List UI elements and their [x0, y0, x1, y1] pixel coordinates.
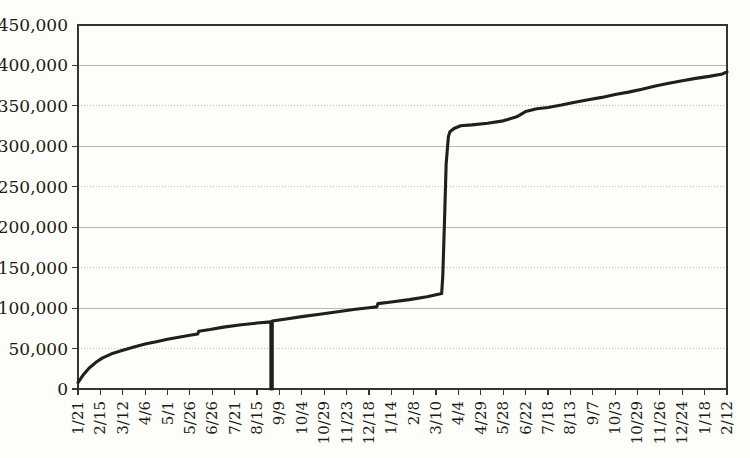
x-tick-label-6-22: 6/22	[517, 401, 535, 435]
x-tick-label-5-28: 5/28	[494, 401, 512, 435]
x-tick-label-4-4: 4/4	[449, 401, 467, 425]
x-tick-label-9-7: 9/7	[584, 401, 602, 425]
x-tick-label-2-8: 2/8	[405, 401, 423, 425]
x-tick-label-6-26: 6/26	[203, 401, 221, 435]
x-tick-label-10-29: 10/29	[628, 401, 646, 444]
y-tick-label-400000: 400,000	[0, 55, 68, 75]
x-tick-label-2-12: 2/12	[718, 401, 736, 435]
x-tick-label-10-3: 10/3	[606, 401, 624, 435]
x-tick-label-4-6: 4/6	[136, 401, 154, 425]
y-tick-label-350000: 350,000	[0, 96, 68, 116]
y-tick-label-300000: 300,000	[0, 136, 68, 156]
y-tick-label-450000: 450,000	[0, 15, 68, 35]
x-tick-label-8-13: 8/13	[561, 401, 579, 435]
y-tick-label-0: 0	[57, 379, 68, 399]
x-tick-label-10-4: 10/4	[293, 401, 311, 435]
x-tick-label-1-14: 1/14	[382, 401, 400, 435]
x-tick-label-3-10: 3/10	[427, 401, 445, 435]
y-tick-label-250000: 250,000	[0, 177, 68, 197]
x-tick-label-5-1: 5/1	[159, 401, 177, 425]
y-tick-label-100000: 100,000	[0, 298, 68, 318]
chart-page: 050,000100,000150,000200,000250,000300,0…	[0, 0, 750, 458]
x-tick-label-1-18: 1/18	[696, 401, 714, 435]
y-tick-label-200000: 200,000	[0, 217, 68, 237]
x-tick-label-8-15: 8/15	[248, 401, 266, 435]
y-tick-label-50000: 50,000	[9, 339, 68, 359]
x-tick-label-1-21: 1/21	[69, 401, 87, 435]
y-tick-label-150000: 150,000	[0, 258, 68, 278]
x-tick-label-7-21: 7/21	[226, 401, 244, 435]
x-tick-label-9-9: 9/9	[270, 401, 288, 425]
x-tick-label-2-15: 2/15	[91, 401, 109, 435]
x-tick-label-7-18: 7/18	[539, 401, 557, 435]
x-tick-label-12-18: 12/18	[360, 401, 378, 444]
x-tick-label-3-12: 3/12	[114, 401, 132, 435]
x-tick-label-11-23: 11/23	[338, 401, 356, 444]
x-tick-label-10-29: 10/29	[315, 401, 333, 444]
x-tick-label-4-29: 4/29	[472, 401, 490, 435]
x-tick-label-11-26: 11/26	[651, 401, 669, 444]
x-tick-label-5-26: 5/26	[181, 401, 199, 435]
line-chart: 050,000100,000150,000200,000250,000300,0…	[0, 0, 750, 458]
x-tick-label-12-24: 12/24	[673, 401, 691, 444]
